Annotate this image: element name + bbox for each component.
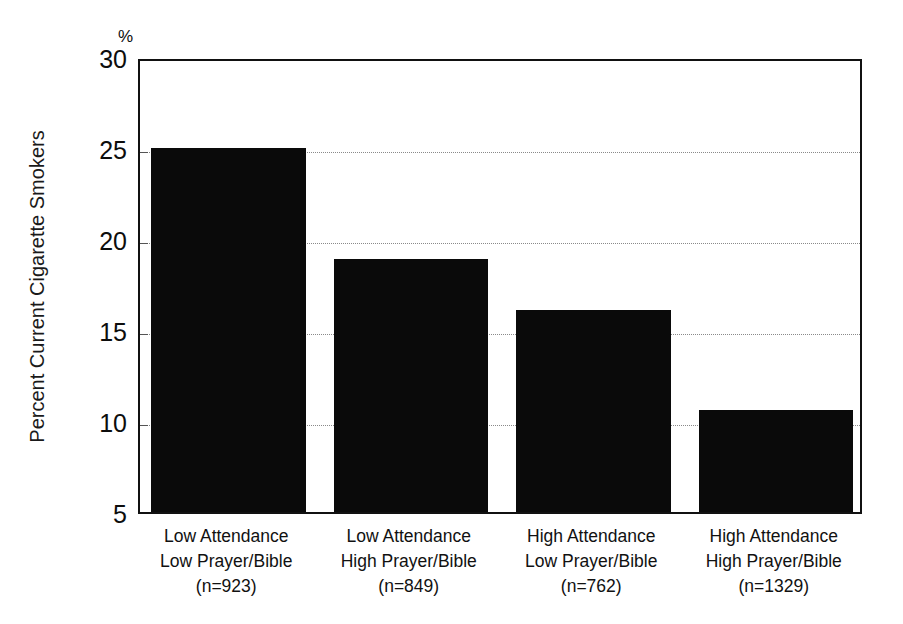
bar bbox=[516, 310, 671, 512]
x-axis-category-line: Low Prayer/Bible bbox=[514, 549, 669, 574]
x-axis-category-label: High AttendanceHigh Prayer/Bible(n=1329) bbox=[697, 524, 852, 599]
y-axis-tick-mark bbox=[140, 334, 148, 335]
x-axis-category-label: Low AttendanceHigh Prayer/Bible(n=849) bbox=[332, 524, 487, 599]
bar bbox=[699, 410, 854, 512]
y-axis-tick-label: 15 bbox=[99, 318, 127, 347]
x-axis-category-line: (n=1329) bbox=[697, 574, 852, 599]
y-axis-tick-label: 30 bbox=[99, 45, 127, 74]
bar bbox=[334, 259, 489, 512]
y-axis-tick-labels: 30252015105 bbox=[55, 0, 127, 624]
x-axis-category-line: (n=923) bbox=[149, 574, 304, 599]
x-axis-category-line: Low Attendance bbox=[149, 524, 304, 549]
x-axis-category-line: (n=762) bbox=[514, 574, 669, 599]
y-axis-tick-mark bbox=[140, 152, 148, 153]
bar-chart-figure: Percent Current Cigarette Smokers % 3025… bbox=[0, 0, 903, 624]
x-axis-category-line: Low Attendance bbox=[332, 524, 487, 549]
y-axis-tick-label: 5 bbox=[113, 500, 127, 529]
y-axis-title: Percent Current Cigarette Smokers bbox=[20, 59, 54, 514]
x-axis-category-label: High AttendanceLow Prayer/Bible(n=762) bbox=[514, 524, 669, 599]
y-axis-tick-label: 25 bbox=[99, 136, 127, 165]
bar bbox=[151, 148, 306, 512]
x-axis-category-labels: Low AttendanceLow Prayer/Bible(n=923)Low… bbox=[138, 524, 862, 614]
x-axis-category-line: High Attendance bbox=[697, 524, 852, 549]
y-axis-tick-mark bbox=[140, 425, 148, 426]
y-axis-tick-mark bbox=[140, 243, 148, 244]
x-axis-category-label: Low AttendanceLow Prayer/Bible(n=923) bbox=[149, 524, 304, 599]
y-axis-tick-label: 10 bbox=[99, 409, 127, 438]
x-axis-category-line: High Prayer/Bible bbox=[332, 549, 487, 574]
x-axis-category-line: High Attendance bbox=[514, 524, 669, 549]
x-axis-category-line: Low Prayer/Bible bbox=[149, 549, 304, 574]
plot-area bbox=[138, 59, 862, 514]
x-axis-category-line: High Prayer/Bible bbox=[697, 549, 852, 574]
y-axis-tick-label: 20 bbox=[99, 227, 127, 256]
x-axis-category-line: (n=849) bbox=[332, 574, 487, 599]
